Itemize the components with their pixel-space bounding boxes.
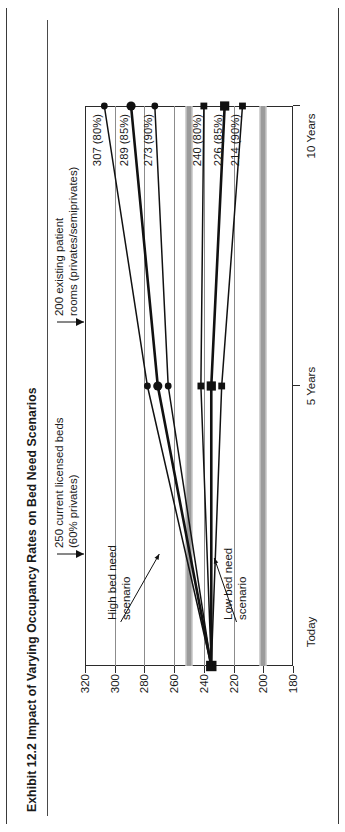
annotation-arrows [85, 106, 293, 666]
y-axis-label: 320 [79, 674, 91, 712]
scanned-page: Exhibit 12.2 Impact of Varying Occupancy… [0, 0, 345, 832]
y-axis-label: 220 [227, 674, 239, 712]
y-axis-label: 200 [257, 674, 269, 712]
y-axis-label: 240 [197, 674, 209, 712]
y-axis-tick [85, 666, 86, 673]
y-axis-tick [293, 666, 294, 673]
y-axis-label: 300 [108, 674, 120, 712]
y-axis-tick [263, 666, 264, 673]
annotation-arrow-line [120, 554, 159, 622]
x-axis-tick [293, 105, 300, 106]
x-axis-tick [293, 385, 300, 386]
y-axis-label: 180 [287, 674, 299, 712]
reference-callout-arrowhead [76, 550, 84, 558]
y-axis-label: 280 [138, 674, 150, 712]
y-axis-tick [144, 666, 145, 673]
y-axis-label: 260 [168, 674, 180, 712]
y-axis-tick [233, 666, 234, 673]
y-axis-tick [114, 666, 115, 673]
annotation-arrow-line [214, 558, 236, 622]
x-axis-label: 5 Years [305, 367, 317, 405]
annotation-arrow-head [213, 558, 217, 564]
reference-callout-arrowhead [76, 318, 84, 326]
x-axis-label: Today [305, 617, 317, 648]
y-axis-tick [174, 666, 175, 673]
x-axis-label: 10 Years [305, 114, 317, 159]
y-axis-tick [203, 666, 204, 673]
rotated-figure-canvas: Exhibit 12.2 Impact of Varying Occupancy… [23, 16, 323, 816]
page-rule-right [338, 8, 339, 824]
plot-area: 320300280260240220200180 Today5 Years10 … [85, 106, 293, 666]
page-rule-left [6, 8, 7, 824]
